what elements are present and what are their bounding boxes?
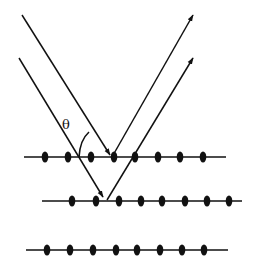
atom-dot — [138, 196, 145, 207]
atom-dot — [182, 196, 189, 207]
atom-dot — [44, 245, 51, 256]
atom-dot — [204, 196, 211, 207]
atom-dot — [179, 245, 186, 256]
lattice-plane-2 — [42, 196, 242, 207]
atom-dot — [200, 152, 207, 163]
reflected-ray-arrow-1 — [112, 15, 193, 157]
atom-dot — [90, 245, 97, 256]
lattice-plane-3 — [26, 245, 228, 256]
atom-dot — [134, 245, 141, 256]
atom-dot — [113, 245, 120, 256]
atom-dot — [201, 245, 208, 256]
atom-dot — [93, 196, 100, 207]
atom-dot — [67, 245, 74, 256]
lattice-plane-1 — [24, 152, 226, 163]
angle-arc — [79, 132, 89, 157]
atom-dot — [116, 196, 123, 207]
reflected-ray-arrow-2 — [107, 58, 193, 200]
atom-dot — [65, 152, 72, 163]
atom-dot — [226, 196, 233, 207]
incident-ray-arrow-2 — [19, 58, 103, 197]
atom-dot — [159, 196, 166, 207]
atom-dot — [88, 152, 95, 163]
atom-dot — [177, 152, 184, 163]
bragg-diffraction-diagram — [0, 0, 254, 269]
atom-dot — [155, 152, 162, 163]
atom-dot — [69, 196, 76, 207]
theta-angle-label: θ — [62, 117, 70, 132]
atom-dot — [157, 245, 164, 256]
atom-dot — [42, 152, 49, 163]
